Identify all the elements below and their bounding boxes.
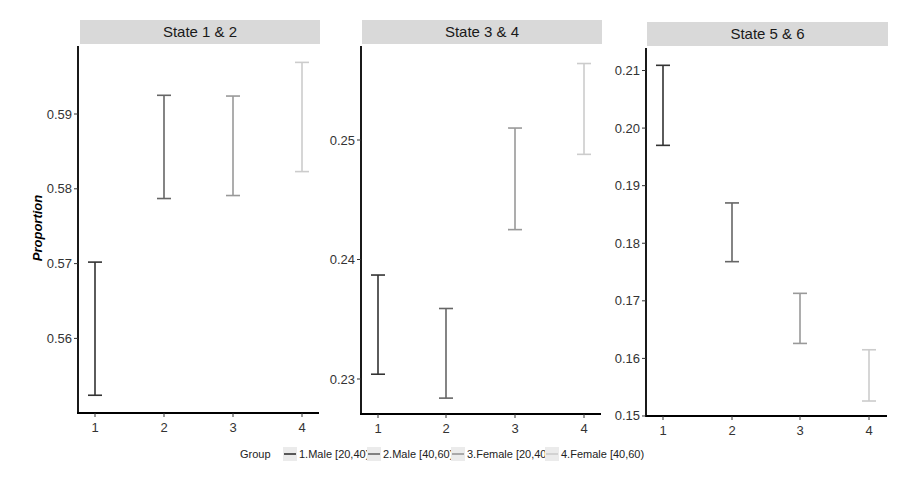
y-tick-label: 0.23 bbox=[330, 372, 355, 387]
legend-item: 3.Female [20,40) bbox=[451, 447, 550, 461]
error-bar bbox=[439, 308, 453, 398]
legend-label: 3.Female [20,40) bbox=[467, 448, 550, 460]
x-tick-label: 4 bbox=[865, 423, 872, 438]
error-bar bbox=[577, 64, 591, 155]
facet-title: State 5 & 6 bbox=[730, 25, 804, 42]
x-tick-label: 1 bbox=[659, 423, 666, 438]
x-tick-label: 4 bbox=[580, 421, 587, 436]
y-tick-label: 0.20 bbox=[615, 121, 640, 136]
y-axis-title: Proportion bbox=[30, 195, 45, 261]
legend: Group 1.Male [20,40)2.Male [40,60)3.Fema… bbox=[240, 447, 644, 461]
y-tick-label: 0.17 bbox=[615, 293, 640, 308]
legend-item: 2.Male [40,60) bbox=[367, 447, 453, 461]
panel-state-1-2: State 1 & 20.560.570.580.591234 bbox=[47, 20, 320, 435]
x-tick-label: 3 bbox=[229, 420, 236, 435]
legend-label: 2.Male [40,60) bbox=[383, 448, 453, 460]
panel-state-3-4: State 3 & 40.230.240.251234 bbox=[330, 20, 602, 436]
facet-title: State 3 & 4 bbox=[445, 23, 519, 40]
y-tick-label: 0.58 bbox=[47, 181, 72, 196]
x-tick-label: 1 bbox=[91, 420, 98, 435]
error-bar bbox=[157, 95, 171, 198]
y-tick-label: 0.16 bbox=[615, 351, 640, 366]
legend-title: Group bbox=[240, 448, 271, 460]
error-bar bbox=[725, 203, 739, 262]
y-tick-label: 0.24 bbox=[330, 252, 355, 267]
error-bar bbox=[295, 62, 309, 171]
y-tick-label: 0.25 bbox=[330, 133, 355, 148]
legend-label: 1.Male [20,40) bbox=[299, 448, 369, 460]
error-bar bbox=[226, 96, 240, 195]
error-bar bbox=[508, 128, 522, 230]
error-bar bbox=[862, 350, 876, 401]
y-tick-label: 0.21 bbox=[615, 63, 640, 78]
y-tick-label: 0.56 bbox=[47, 331, 72, 346]
y-tick-label: 0.18 bbox=[615, 236, 640, 251]
y-tick-label: 0.59 bbox=[47, 107, 72, 122]
error-bar bbox=[88, 262, 102, 395]
x-tick-label: 1 bbox=[374, 421, 381, 436]
x-tick-label: 3 bbox=[796, 423, 803, 438]
error-bar bbox=[656, 65, 670, 145]
x-tick-label: 3 bbox=[511, 421, 518, 436]
error-bar bbox=[371, 275, 385, 374]
y-tick-label: 0.19 bbox=[615, 178, 640, 193]
x-tick-label: 2 bbox=[728, 423, 735, 438]
y-tick-label: 0.15 bbox=[615, 408, 640, 423]
faceted-errorbar-chart: Proportion State 1 & 20.560.570.580.5912… bbox=[0, 0, 918, 488]
legend-item: 4.Female [40,60) bbox=[545, 447, 644, 461]
x-tick-label: 2 bbox=[160, 420, 167, 435]
x-tick-label: 2 bbox=[442, 421, 449, 436]
legend-label: 4.Female [40,60) bbox=[561, 448, 644, 460]
x-tick-label: 4 bbox=[298, 420, 305, 435]
legend-item: 1.Male [20,40) bbox=[283, 447, 369, 461]
facet-title: State 1 & 2 bbox=[163, 23, 237, 40]
error-bar bbox=[793, 293, 807, 343]
panel-state-5-6: State 5 & 60.150.160.170.180.190.200.211… bbox=[615, 22, 888, 438]
y-tick-label: 0.57 bbox=[47, 256, 72, 271]
